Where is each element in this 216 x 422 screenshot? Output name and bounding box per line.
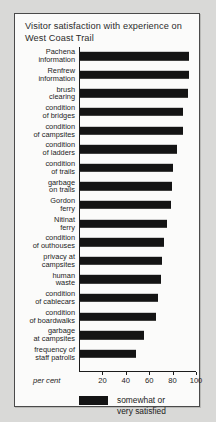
axis-unit-label: per cent xyxy=(33,376,60,385)
bar-row: garbage on trails xyxy=(15,177,201,196)
bar-row: Nitinat ferry xyxy=(15,214,201,233)
bar-track xyxy=(79,140,201,159)
bar-track xyxy=(79,252,201,271)
bar-row: condition of bridges xyxy=(15,103,201,122)
bar xyxy=(79,164,173,172)
plot-rows: Pachena informationRenfrew informationbr… xyxy=(15,47,201,375)
axis-tick-label: 80 xyxy=(168,376,176,385)
bar-category-label: garbage on trails xyxy=(15,179,79,195)
axis-tick xyxy=(196,372,197,375)
bar-track xyxy=(79,326,201,345)
bar-track xyxy=(79,159,201,178)
bar xyxy=(79,350,136,358)
bar-track xyxy=(79,47,201,66)
bar-category-label: condition of trails xyxy=(15,160,79,176)
bar-category-label: condition of bridges xyxy=(15,104,79,120)
bar-row: Gordon ferry xyxy=(15,196,201,215)
bar-category-label: frequency of staff patrolls xyxy=(15,346,79,362)
page-background: Visitor satisfaction with experience on … xyxy=(0,0,216,422)
bar xyxy=(79,275,161,283)
bar-category-label: privacy at campsites xyxy=(15,253,79,269)
bar-row: condition of outhouses xyxy=(15,233,201,252)
bar xyxy=(79,145,177,153)
axis-tick xyxy=(149,372,150,375)
bar-category-label: condition of campsites xyxy=(15,123,79,139)
bar xyxy=(79,126,183,134)
bar-track xyxy=(79,103,201,122)
legend-swatch xyxy=(79,396,108,405)
bar-track xyxy=(79,307,201,326)
value-axis-line xyxy=(79,47,80,372)
bar-row: Pachena information xyxy=(15,47,201,66)
chart-legend: somewhat or very satisfied xyxy=(79,395,166,416)
bar-track xyxy=(79,289,201,308)
bar-row: brush clearing xyxy=(15,84,201,103)
bar-row: condition of campsites xyxy=(15,121,201,140)
bar-category-label: garbage at campsites xyxy=(15,327,79,343)
axis-tick-label: 100 xyxy=(190,376,203,385)
bar-category-label: Gordon ferry xyxy=(15,197,79,213)
bar-category-label: condition of outhouses xyxy=(15,234,79,250)
bar-track xyxy=(79,214,201,233)
bar-row: condition of trails xyxy=(15,159,201,178)
bar-row: condition of ladders xyxy=(15,140,201,159)
bar-track xyxy=(79,66,201,85)
bar-category-label: condition of boardwalks xyxy=(15,309,79,325)
axis-tick-label: 40 xyxy=(122,376,130,385)
category-axis-line xyxy=(79,371,196,372)
bar-category-label: Renfrew information xyxy=(15,67,79,83)
bar-category-label: Pachena information xyxy=(15,48,79,64)
bar-track xyxy=(79,177,201,196)
bar xyxy=(79,201,171,209)
bar-track xyxy=(79,270,201,289)
bar-row: privacy at campsites xyxy=(15,252,201,271)
bar-category-label: human waste xyxy=(15,272,79,288)
bar xyxy=(79,294,158,302)
bar-category-label: condition of ladders xyxy=(15,141,79,157)
bar-track xyxy=(79,345,201,364)
chart-title: Visitor satisfaction with experience on … xyxy=(25,20,191,44)
bar-row: condition of cablecars xyxy=(15,289,201,308)
legend-label: somewhat or very satisfied xyxy=(117,395,166,416)
bar xyxy=(79,219,167,227)
axis-tick xyxy=(102,372,103,375)
bar-track xyxy=(79,84,201,103)
axis-tick xyxy=(173,372,174,375)
bar xyxy=(79,331,144,339)
bar-row: frequency of staff patrolls xyxy=(15,345,201,364)
axis-tick xyxy=(126,372,127,375)
bar-category-label: Nitinat ferry xyxy=(15,216,79,232)
bar-row: condition of boardwalks xyxy=(15,307,201,326)
bar-track xyxy=(79,121,201,140)
bar-track xyxy=(79,196,201,215)
bar-row: Renfrew information xyxy=(15,66,201,85)
axis-tick-label: 60 xyxy=(145,376,153,385)
bar xyxy=(79,89,188,97)
bar xyxy=(79,312,156,320)
bar xyxy=(79,182,172,190)
bar-row: human waste xyxy=(15,270,201,289)
bar-track xyxy=(79,233,201,252)
chart-panel: Visitor satisfaction with experience on … xyxy=(14,13,200,407)
axis-tick-label: 20 xyxy=(98,376,106,385)
bar xyxy=(79,238,164,246)
bar xyxy=(79,52,189,60)
bar-category-label: brush clearing xyxy=(15,86,79,102)
bar-category-label: condition of cablecars xyxy=(15,290,79,306)
bar xyxy=(79,257,162,265)
bar-row: garbage at campsites xyxy=(15,326,201,345)
bar xyxy=(79,71,189,79)
bar xyxy=(79,108,183,116)
